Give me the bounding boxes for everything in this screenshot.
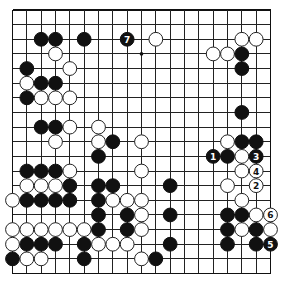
black-stone <box>20 193 34 207</box>
white-stone <box>49 223 63 237</box>
white-stone-disc <box>106 237 120 251</box>
black-stone-disc <box>235 62 249 76</box>
white-stone <box>6 237 20 251</box>
white-stone-disc <box>135 223 149 237</box>
black-stone <box>92 149 106 163</box>
white-stone <box>206 47 220 61</box>
go-board-diagram: 7134265 <box>0 0 284 286</box>
black-stone-disc <box>20 193 34 207</box>
white-stone-disc <box>63 164 77 178</box>
black-stone <box>92 208 106 222</box>
white-stone <box>34 179 48 193</box>
white-stone-disc <box>6 193 20 207</box>
white-stone <box>221 179 235 193</box>
black-stone <box>221 237 235 251</box>
black-stone <box>249 135 263 149</box>
white-stone <box>235 149 249 163</box>
black-stone-disc <box>34 120 48 134</box>
black-stone-disc <box>49 76 63 90</box>
black-stone-disc <box>63 179 77 193</box>
white-stone-disc <box>34 91 48 105</box>
black-stone-disc <box>92 149 106 163</box>
white-stone-disc <box>235 32 249 46</box>
black-stone <box>163 237 177 251</box>
black-stone-disc <box>235 208 249 222</box>
white-stone-disc <box>92 237 106 251</box>
black-stone <box>77 252 91 266</box>
black-stone <box>6 252 20 266</box>
white-stone-disc <box>6 237 20 251</box>
black-stone-disc <box>221 237 235 251</box>
black-stone-move-7: 7 <box>120 32 134 46</box>
black-stone-disc <box>221 149 235 163</box>
white-stone <box>6 193 20 207</box>
white-stone-disc <box>249 32 263 46</box>
black-stone-disc <box>20 91 34 105</box>
white-stone-disc <box>221 47 235 61</box>
white-stone-disc <box>63 91 77 105</box>
white-stone <box>92 120 106 134</box>
white-stone-disc <box>77 223 91 237</box>
star-point <box>140 52 144 56</box>
white-stone <box>34 91 48 105</box>
black-stone <box>63 179 77 193</box>
white-stone <box>49 47 63 61</box>
white-stone-disc <box>221 135 235 149</box>
black-stone <box>49 237 63 251</box>
black-stone <box>20 237 34 251</box>
white-stone-disc <box>135 252 149 266</box>
black-stone <box>63 193 77 207</box>
black-stone <box>221 223 235 237</box>
white-stone <box>34 252 48 266</box>
black-stone <box>249 223 263 237</box>
white-stone-disc <box>221 179 235 193</box>
white-stone-disc <box>249 208 263 222</box>
black-stone <box>235 135 249 149</box>
black-stone-disc <box>92 193 106 207</box>
black-stone-disc <box>20 62 34 76</box>
white-stone-move-2: 2 <box>249 179 263 193</box>
move-number-label: 2 <box>253 181 259 191</box>
black-stone <box>120 223 134 237</box>
white-stone <box>63 91 77 105</box>
white-stone <box>63 164 77 178</box>
black-stone <box>106 179 120 193</box>
white-stone-disc <box>6 223 20 237</box>
white-stone <box>149 32 163 46</box>
black-stone-disc <box>120 208 134 222</box>
black-stone-disc <box>221 208 235 222</box>
white-stone <box>135 135 149 149</box>
black-stone <box>235 208 249 222</box>
black-stone <box>20 62 34 76</box>
white-stone-disc <box>34 252 48 266</box>
white-stone-move-6: 6 <box>264 208 278 222</box>
white-stone <box>49 179 63 193</box>
white-stone <box>92 237 106 251</box>
black-stone-disc <box>92 208 106 222</box>
white-stone-disc <box>206 47 220 61</box>
black-stone-disc <box>34 193 48 207</box>
black-stone-disc <box>20 237 34 251</box>
white-stone-disc <box>149 32 163 46</box>
black-stone-move-5: 5 <box>264 237 278 251</box>
black-stone <box>34 76 48 90</box>
black-stone <box>235 62 249 76</box>
black-stone <box>34 193 48 207</box>
black-stone <box>34 120 48 134</box>
black-stone <box>77 32 91 46</box>
black-stone-disc <box>49 237 63 251</box>
white-stone <box>264 223 278 237</box>
black-stone-disc <box>92 223 106 237</box>
black-stone-disc <box>235 106 249 120</box>
black-stone-disc <box>92 179 106 193</box>
black-stone-disc <box>63 193 77 207</box>
black-stone-disc <box>221 223 235 237</box>
white-stone <box>135 193 149 207</box>
white-stone-disc <box>20 179 34 193</box>
black-stone-disc <box>235 135 249 149</box>
black-stone-disc <box>163 208 177 222</box>
black-stone-disc <box>106 179 120 193</box>
white-stone <box>135 252 149 266</box>
black-stone-disc <box>49 32 63 46</box>
black-stone <box>120 208 134 222</box>
